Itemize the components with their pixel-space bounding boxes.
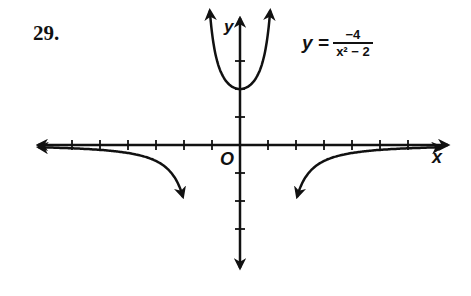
curve-right-branch — [297, 147, 442, 197]
curve-left-branch — [38, 147, 183, 197]
x-axis-label: x — [432, 147, 442, 168]
origin-label: O — [220, 149, 234, 170]
graph-canvas — [0, 0, 471, 296]
y-axis-label: y — [224, 17, 233, 37]
